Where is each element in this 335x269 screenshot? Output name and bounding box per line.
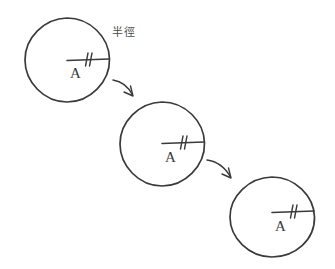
circle-outline-3 bbox=[230, 177, 315, 257]
arrow-curve-1 bbox=[113, 80, 133, 95]
radius-line-2 bbox=[162, 142, 204, 144]
circle-group-3: A bbox=[230, 177, 315, 257]
arrow-curve-2 bbox=[207, 160, 231, 177]
transition-arrow-2 bbox=[207, 160, 231, 178]
circle-group-2: A bbox=[120, 102, 205, 186]
geometry-diagram-canvas: A A A 半徑 bbox=[0, 0, 335, 269]
center-point-label-1: A bbox=[70, 65, 81, 81]
sketch-drawing: A A A bbox=[0, 0, 335, 269]
radius-line-1 bbox=[67, 59, 109, 61]
center-point-label-3: A bbox=[275, 218, 286, 234]
transition-arrow-1 bbox=[113, 80, 133, 96]
radius-term-label: 半徑 bbox=[112, 27, 136, 38]
center-point-label-2: A bbox=[165, 149, 176, 165]
circle-group-1: A bbox=[25, 18, 110, 102]
radius-line-3 bbox=[272, 211, 314, 213]
